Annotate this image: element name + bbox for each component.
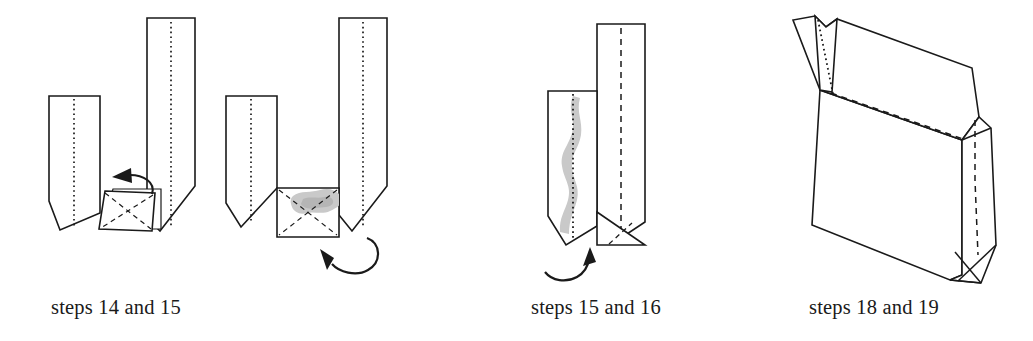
upward-curved-arrow-shaft (545, 259, 589, 280)
tall-right-panel (597, 24, 645, 244)
caption-steps-15-16: steps 15 and 16 (531, 296, 661, 319)
figure-steps-18-19 (793, 16, 996, 283)
upward-curved-arrow-head (320, 249, 334, 270)
left-pointing-curved-arrow-head (112, 168, 132, 183)
figure-sheet (0, 0, 1033, 341)
upward-curved-arrow-head (583, 247, 596, 266)
right-tall-panel (339, 18, 387, 231)
figure-steps-14-15-result (226, 18, 387, 273)
caption-steps-14-15: steps 14 and 15 (51, 296, 181, 319)
caption-steps-18-19: steps 18 and 19 (809, 296, 939, 319)
figure-steps-14-15 (49, 18, 195, 231)
upward-curved-arrow-shaft (332, 238, 378, 273)
figure-steps-15-16 (545, 24, 645, 280)
